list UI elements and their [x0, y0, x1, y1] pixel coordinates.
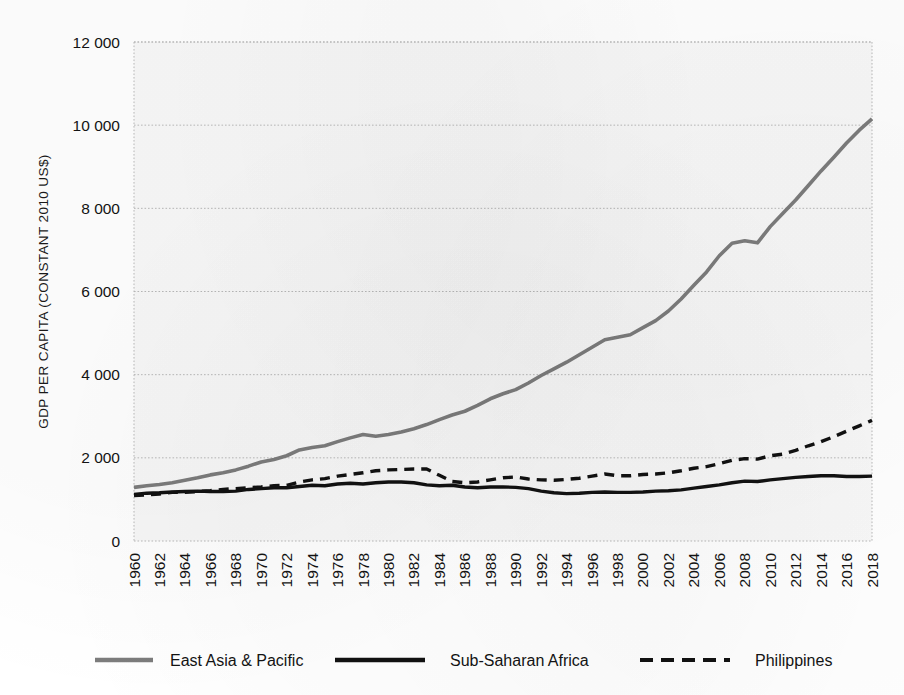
x-tick-label: 1976 [329, 553, 346, 587]
x-tick-label: 2010 [762, 553, 779, 588]
y-tick-label: 8 000 [81, 200, 120, 217]
legend-label-0[interactable]: East Asia & Pacific [170, 652, 303, 669]
x-tick-label: 1990 [507, 553, 524, 588]
x-tick-label: 1972 [278, 553, 295, 587]
x-tick-label: 2006 [711, 553, 728, 587]
x-tick-label: 2014 [813, 553, 830, 588]
y-axis-title: GDP PER CAPITA (CONSTANT 2010 US$) [36, 154, 51, 428]
x-tick-label: 1988 [482, 553, 499, 587]
x-tick-label: 2018 [864, 553, 881, 587]
x-tick-label: 1968 [227, 553, 244, 587]
x-tick-label: 2016 [838, 553, 855, 587]
x-tick-label: 1970 [253, 553, 270, 588]
x-tick-label: 1998 [609, 553, 626, 587]
x-tick-label: 2000 [634, 553, 651, 588]
y-tick-label: 12 000 [73, 34, 121, 51]
chart-canvas: 02 0004 0006 0008 00010 00012 000GDP PER… [0, 0, 904, 695]
y-tick-label: 2 000 [81, 449, 120, 466]
y-tick-label: 4 000 [81, 366, 120, 383]
x-tick-label: 1978 [355, 553, 372, 587]
gdp-per-capita-line-chart: 02 0004 0006 0008 00010 00012 000GDP PER… [0, 0, 904, 695]
x-tick-label: 1984 [431, 553, 448, 588]
x-tick-label: 2004 [685, 553, 702, 588]
legend-label-1[interactable]: Sub-Saharan Africa [450, 652, 589, 669]
y-tick-label: 0 [111, 533, 120, 550]
x-tick-label: 1964 [176, 553, 193, 588]
x-tick-label: 1996 [584, 553, 601, 587]
y-tick-label: 6 000 [81, 283, 120, 300]
legend-label-2[interactable]: Philippines [755, 652, 832, 669]
x-tick-label: 1982 [405, 553, 422, 587]
x-tick-label: 1992 [533, 553, 550, 587]
x-tick-label: 2008 [736, 553, 753, 587]
x-tick-label: 1980 [380, 553, 397, 588]
x-tick-label: 1974 [304, 553, 321, 588]
y-tick-label: 10 000 [73, 117, 121, 134]
x-tick-label: 1966 [202, 553, 219, 587]
x-tick-label: 1962 [151, 553, 168, 587]
x-tick-label: 1960 [126, 553, 143, 588]
x-tick-label: 2002 [660, 553, 677, 587]
x-tick-label: 1994 [558, 553, 575, 588]
x-tick-label: 1986 [456, 553, 473, 587]
x-tick-label: 2012 [787, 553, 804, 587]
